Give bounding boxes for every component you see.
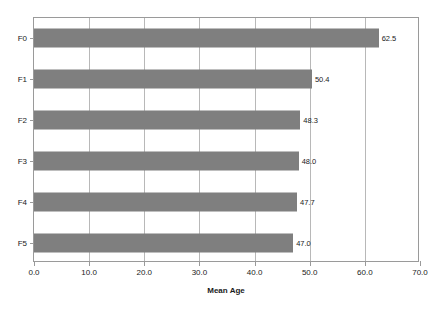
x-axis-tick bbox=[255, 261, 256, 266]
x-axis-tick bbox=[365, 261, 366, 266]
bar-row: F248.3 bbox=[34, 100, 418, 141]
x-axis-tick-label: 60.0 bbox=[357, 268, 373, 277]
x-axis-tick-label: 10.0 bbox=[81, 268, 97, 277]
y-axis-category-label: F2 bbox=[18, 116, 27, 125]
plot-area: F062.5F150.4F248.3F348.0F447.7F547.0 0.0… bbox=[33, 17, 419, 262]
bar-value-label: 47.0 bbox=[293, 238, 311, 247]
bar bbox=[34, 233, 293, 252]
bar bbox=[34, 29, 379, 48]
x-axis-tick-label: 40.0 bbox=[247, 268, 263, 277]
x-axis-tick-label: 70.0 bbox=[412, 268, 428, 277]
y-axis-category-label: F5 bbox=[18, 238, 27, 247]
bar-value-label: 48.3 bbox=[300, 116, 318, 125]
bar-value-label: 47.7 bbox=[297, 197, 315, 206]
x-axis-title: Mean Age bbox=[33, 286, 419, 295]
bar-row: F062.5 bbox=[34, 18, 418, 59]
y-axis-category-label: F1 bbox=[18, 75, 27, 84]
bar bbox=[34, 70, 312, 89]
bar bbox=[34, 192, 297, 211]
x-axis-tick-label: 20.0 bbox=[136, 268, 152, 277]
x-axis-tick-label: 50.0 bbox=[302, 268, 318, 277]
y-axis-category-label: F4 bbox=[18, 197, 27, 206]
x-axis-tick bbox=[89, 261, 90, 266]
x-axis-tick bbox=[310, 261, 311, 266]
bar-row: F150.4 bbox=[34, 59, 418, 100]
bar bbox=[34, 151, 299, 170]
y-axis-category-label: F3 bbox=[18, 156, 27, 165]
bar-value-label: 50.4 bbox=[312, 75, 330, 84]
bar-chart: F062.5F150.4F248.3F348.0F447.7F547.0 0.0… bbox=[0, 0, 439, 309]
bars-layer: F062.5F150.4F248.3F348.0F447.7F547.0 bbox=[34, 18, 418, 261]
x-axis-tick bbox=[34, 261, 35, 266]
y-axis-category-label: F0 bbox=[18, 34, 27, 43]
bar-value-label: 62.5 bbox=[379, 34, 397, 43]
x-axis-tick bbox=[420, 261, 421, 266]
bar-row: F348.0 bbox=[34, 141, 418, 182]
bar-value-label: 48.0 bbox=[299, 156, 317, 165]
x-axis-tick-label: 30.0 bbox=[192, 268, 208, 277]
bar-row: F547.0 bbox=[34, 222, 418, 263]
bar-row: F447.7 bbox=[34, 181, 418, 222]
x-axis-tick bbox=[144, 261, 145, 266]
x-axis-tick-label: 0.0 bbox=[28, 268, 39, 277]
bar bbox=[34, 111, 300, 130]
x-axis-tick bbox=[199, 261, 200, 266]
